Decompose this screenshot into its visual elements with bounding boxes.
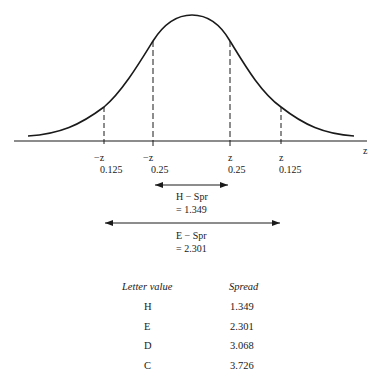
- e-spread-value: = 2.301: [176, 243, 207, 254]
- table-cell-letter: E: [144, 321, 150, 332]
- tick-z-label: −z: [94, 152, 104, 163]
- table-cell-spread: 3.068: [230, 340, 254, 351]
- tick-z-label: −z: [143, 152, 153, 163]
- table-cell-letter: D: [144, 340, 152, 351]
- h-spread-name: H − Spr: [176, 191, 208, 202]
- axis-end-label: z: [363, 145, 367, 156]
- tick-p-label: 0.125: [279, 164, 302, 175]
- normal-curve-figure: [0, 0, 384, 379]
- table-header-spread: Spread: [229, 281, 258, 292]
- tick-p-label: 0.125: [100, 164, 123, 175]
- tick-z-label: z: [279, 152, 283, 163]
- tick-z-label: z: [228, 152, 232, 163]
- table-cell-spread: 3.726: [230, 360, 254, 371]
- table-cell-letter: C: [144, 360, 151, 371]
- table-cell-spread: 1.349: [230, 301, 254, 312]
- tick-p-label: 0.25: [151, 164, 169, 175]
- e-spread-name: E − Spr: [176, 230, 207, 241]
- table-header-letter: Letter value: [122, 281, 172, 292]
- table-cell-letter: H: [144, 301, 152, 312]
- density-curve: [28, 15, 354, 136]
- tick-p-label: 0.25: [228, 164, 246, 175]
- h-spread-value: = 1.349: [176, 204, 207, 215]
- table-cell-spread: 2.301: [230, 321, 254, 332]
